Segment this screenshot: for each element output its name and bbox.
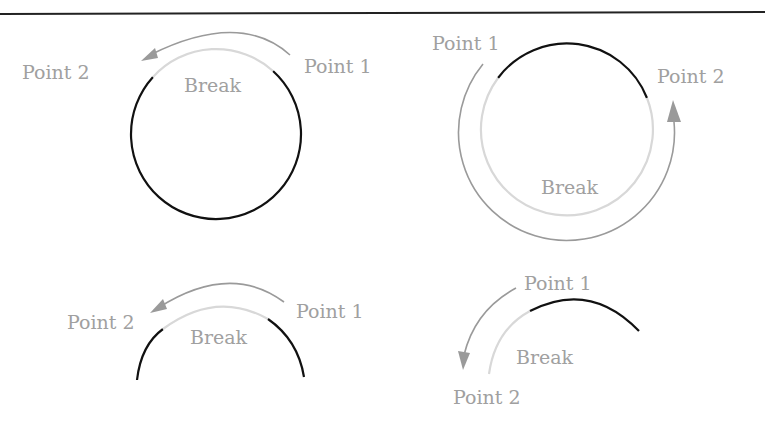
point2-label: Point 2 <box>453 386 521 408</box>
break-segment <box>153 49 273 77</box>
top-rule <box>0 12 765 14</box>
point2-label: Point 2 <box>22 61 90 83</box>
direction-arrow <box>158 283 284 308</box>
panel-bottom-left: Point 2 Point 1 Break <box>67 283 364 380</box>
point1-label: Point 1 <box>304 55 372 77</box>
arc-solid-left <box>137 329 163 380</box>
panel-top-right: Point 1 Point 2 Break <box>432 32 725 240</box>
arrowhead-icon <box>141 48 158 61</box>
break-label: Break <box>516 346 574 368</box>
point2-label: Point 2 <box>657 65 725 87</box>
point1-label: Point 1 <box>296 300 364 322</box>
circle-solid <box>498 43 647 98</box>
direction-arrow <box>150 33 290 56</box>
break-label: Break <box>541 176 599 198</box>
point1-label: Point 1 <box>524 272 592 294</box>
arrowhead-icon <box>667 100 681 122</box>
arc-solid-right <box>268 319 304 377</box>
arrowhead-icon <box>150 299 167 313</box>
arc-solid <box>530 299 639 331</box>
panel-top-left: Point 2 Point 1 Break <box>22 33 372 220</box>
break-diagram: Point 2 Point 1 Break Point 1 Point 2 Br… <box>0 0 765 437</box>
arrowhead-icon <box>458 351 470 370</box>
direction-arrow <box>464 288 516 355</box>
point2-label: Point 2 <box>67 311 135 333</box>
break-label: Break <box>184 74 242 96</box>
break-label: Break <box>190 326 248 348</box>
panel-bottom-right: Point 1 Point 2 Break <box>453 272 639 408</box>
point1-label: Point 1 <box>432 32 500 54</box>
